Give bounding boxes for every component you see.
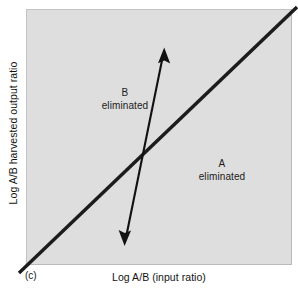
y-axis-title-wrapper: Log A/B harvested output ratio — [0, 0, 26, 265]
plot-graphics — [1, 1, 298, 296]
one-to-one-reference-line — [19, 7, 297, 273]
arrow-head-down — [119, 230, 131, 246]
region-label-a-eliminated: A eliminated — [182, 158, 262, 183]
arrow-shaft — [126, 53, 164, 240]
double-headed-arrow — [119, 48, 171, 247]
region-a-species: A — [182, 158, 262, 171]
y-axis-title: Log A/B harvested output ratio — [7, 61, 19, 204]
region-b-species: B — [85, 87, 165, 100]
arrow-head-up — [158, 48, 170, 64]
x-axis-title: Log A/B (input ratio) — [26, 271, 292, 283]
panel-letter: (c) — [25, 270, 37, 281]
region-label-b-eliminated: B eliminated — [85, 87, 165, 112]
plot-area: B eliminated A eliminated — [26, 9, 292, 265]
region-a-state: eliminated — [182, 171, 262, 184]
figure-panel-c: B eliminated A eliminated Log A/B harves… — [0, 0, 298, 296]
reference-line-group — [19, 7, 297, 273]
region-b-state: eliminated — [85, 100, 165, 113]
